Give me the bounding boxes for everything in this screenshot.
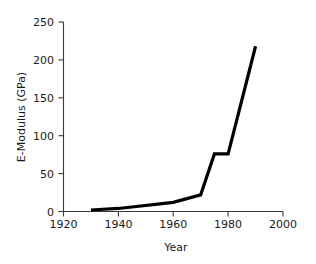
x-axis-title: Year [163,241,188,254]
x-tick-label: 1940 [104,218,132,231]
line-chart: 0 50 100 150 200 250 1920 1940 1960 1980… [0,0,316,264]
y-axis-title: E-Modulus (GPa) [15,72,28,162]
data-line-e-modulus [91,46,256,210]
x-tick-label: 1980 [214,218,242,231]
x-tick-label: 1960 [159,218,187,231]
y-tick-label: 100 [33,130,54,143]
y-tick-label: 150 [33,92,54,105]
x-tick-labels: 1920 1940 1960 1980 2000 [50,218,298,231]
y-tick-label: 50 [40,168,54,181]
y-tick-marks [59,22,64,212]
x-tick-marks [64,212,284,217]
axis-spines [64,22,284,212]
y-tick-labels: 0 50 100 150 200 250 [33,16,54,219]
y-tick-label: 0 [47,206,54,219]
chart-figure: 0 50 100 150 200 250 1920 1940 1960 1980… [0,0,316,264]
x-tick-label: 2000 [269,218,297,231]
x-tick-label: 1920 [50,218,78,231]
y-tick-label: 250 [33,16,54,29]
y-tick-label: 200 [33,54,54,67]
